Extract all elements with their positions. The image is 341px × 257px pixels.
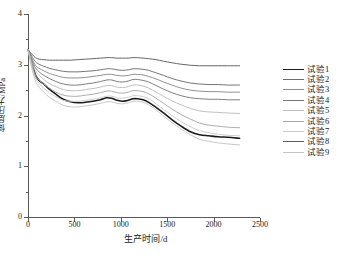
y-tick <box>24 65 28 66</box>
y-minor-tick <box>26 90 28 91</box>
legend-line-swatch <box>283 69 304 70</box>
series-line-6 <box>28 50 240 128</box>
y-tick <box>24 14 28 15</box>
chart-figure: 01234 05001000150020002500 储层压力/MPa 生产时间… <box>0 0 341 257</box>
y-minor-tick <box>26 192 28 193</box>
x-tick-label: 1000 <box>106 221 136 229</box>
legend-label: 试验8 <box>307 137 329 146</box>
legend-item-9[interactable]: 试验9 <box>283 147 341 157</box>
legend-label: 试验4 <box>307 96 329 105</box>
legend-item-2[interactable]: 试验2 <box>283 74 341 84</box>
x-tick-label: 2500 <box>245 221 275 229</box>
legend-line-swatch <box>283 89 304 90</box>
legend-line-swatch <box>283 141 304 142</box>
legend-line-swatch <box>283 79 304 80</box>
y-minor-tick <box>26 141 28 142</box>
legend-item-5[interactable]: 试验5 <box>283 106 341 116</box>
legend-label: 试验5 <box>307 106 329 115</box>
x-tick-label: 0 <box>13 221 43 229</box>
legend-item-7[interactable]: 试验7 <box>283 126 341 136</box>
y-tick-label: 1 <box>0 162 22 170</box>
y-tick-label: 4 <box>0 10 22 18</box>
series-line-3 <box>28 50 240 93</box>
y-axis-title: 储层压力/MPa <box>0 78 7 132</box>
series-line-2 <box>28 50 240 86</box>
chart-legend: 试验1试验2试验3试验4试验5试验6试验7试验8试验9 <box>283 64 341 158</box>
x-tick-label: 1500 <box>152 221 182 229</box>
x-axis-line <box>28 217 260 218</box>
legend-item-4[interactable]: 试验4 <box>283 95 341 105</box>
y-tick-label: 0 <box>0 213 22 221</box>
legend-line-swatch <box>283 100 304 101</box>
y-axis-line <box>28 14 29 217</box>
legend-line-swatch <box>283 121 304 122</box>
x-tick-label: 500 <box>59 221 89 229</box>
legend-item-6[interactable]: 试验6 <box>283 116 341 126</box>
x-tick-label: 2000 <box>199 221 229 229</box>
series-line-7 <box>28 50 240 136</box>
series-line-1 <box>28 50 240 139</box>
y-minor-tick <box>26 39 28 40</box>
legend-line-swatch <box>283 110 304 111</box>
series-line-8 <box>28 50 240 66</box>
legend-item-3[interactable]: 试验3 <box>283 85 341 95</box>
legend-label: 试验6 <box>307 117 329 126</box>
x-axis-title: 生产时间/d <box>96 234 196 244</box>
legend-label: 试验2 <box>307 75 329 84</box>
legend-label: 试验3 <box>307 85 329 94</box>
legend-line-swatch <box>283 131 304 132</box>
legend-item-1[interactable]: 试验1 <box>283 64 341 74</box>
series-line-5 <box>28 50 240 114</box>
series-line-9 <box>28 50 240 145</box>
y-tick-label: 3 <box>0 61 22 69</box>
legend-line-swatch <box>283 152 304 153</box>
legend-label: 试验9 <box>307 148 329 157</box>
y-tick <box>24 116 28 117</box>
legend-label: 试验7 <box>307 127 329 136</box>
legend-label: 试验1 <box>307 65 329 74</box>
legend-item-8[interactable]: 试验8 <box>283 137 341 147</box>
y-tick <box>24 166 28 167</box>
series-line-4 <box>28 50 240 100</box>
